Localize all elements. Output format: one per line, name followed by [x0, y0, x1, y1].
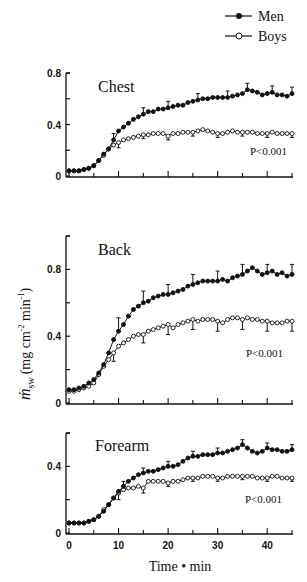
data-point-boys — [275, 132, 279, 136]
data-point-boys — [231, 316, 235, 320]
data-point-men — [141, 112, 145, 116]
data-point-men — [221, 451, 225, 455]
data-point-men — [235, 446, 239, 450]
data-point-men — [250, 266, 254, 270]
data-point-boys — [206, 129, 210, 133]
data-point-men — [136, 115, 140, 119]
data-point-boys — [136, 333, 140, 337]
panel-forearm: 00.4010203040 Forearm P<0.001 — [47, 433, 294, 551]
legend-item-boys: Boys — [225, 29, 287, 44]
data-point-men — [122, 323, 126, 327]
data-point-boys — [166, 481, 170, 485]
x-tick-label: 30 — [212, 540, 224, 551]
y-axis-label: ṁsw(mg cm-2 min-1) — [16, 288, 36, 400]
data-point-boys — [151, 328, 155, 332]
data-point-boys — [231, 129, 235, 133]
data-point-men — [141, 301, 145, 305]
data-point-boys — [265, 476, 269, 480]
data-point-men — [206, 97, 210, 101]
y-tick-label: 0 — [55, 398, 61, 409]
data-point-boys — [290, 319, 294, 323]
data-point-boys — [131, 334, 135, 338]
data-point-boys — [285, 132, 289, 136]
data-point-boys — [260, 476, 264, 480]
data-point-men — [171, 464, 175, 468]
data-point-men — [285, 449, 289, 453]
data-point-boys — [156, 132, 160, 136]
data-point-boys — [216, 132, 220, 136]
data-point-men — [201, 279, 205, 283]
data-point-boys — [126, 338, 130, 342]
data-point-men — [107, 351, 111, 355]
data-point-boys — [221, 132, 225, 136]
data-point-men — [186, 284, 190, 288]
y-tick-label: 0.8 — [47, 264, 61, 275]
data-point-boys — [280, 321, 284, 325]
data-point-men — [117, 129, 121, 133]
data-point-boys — [186, 319, 190, 323]
data-point-men — [166, 464, 170, 468]
data-point-men — [87, 519, 91, 523]
data-point-men — [245, 269, 249, 273]
data-point-boys — [240, 474, 244, 478]
data-point-boys — [131, 486, 135, 490]
data-point-boys — [196, 476, 200, 480]
legend-label-boys: Boys — [258, 29, 287, 44]
data-point-men — [260, 93, 264, 97]
data-point-men — [211, 453, 215, 457]
data-point-men — [211, 279, 215, 283]
data-point-boys — [117, 141, 121, 145]
data-point-boys — [171, 479, 175, 483]
data-point-men — [77, 386, 81, 390]
data-point-men — [156, 107, 160, 111]
data-point-boys — [285, 476, 289, 480]
data-point-boys — [260, 319, 264, 323]
x-tick-label: 20 — [163, 540, 175, 551]
open-circle-marker-icon — [236, 33, 242, 39]
data-point-boys — [245, 316, 249, 320]
data-point-boys — [161, 324, 165, 328]
x-tick-label: 10 — [113, 540, 125, 551]
data-point-men — [156, 468, 160, 472]
data-point-men — [77, 521, 81, 525]
data-point-men — [290, 448, 294, 452]
data-point-boys — [255, 476, 259, 480]
data-point-boys — [280, 132, 284, 136]
data-point-men — [171, 291, 175, 295]
data-point-men — [131, 307, 135, 311]
data-point-men — [235, 93, 239, 97]
data-point-men — [240, 272, 244, 276]
data-point-men — [226, 449, 230, 453]
data-point-men — [265, 92, 269, 96]
p-value-annotation: P<0.001 — [245, 493, 282, 505]
data-point-men — [107, 147, 111, 151]
data-point-boys — [191, 476, 195, 480]
data-point-men — [146, 299, 150, 303]
data-point-men — [280, 93, 284, 97]
data-point-boys — [176, 132, 180, 136]
data-point-boys — [245, 130, 249, 134]
data-point-boys — [166, 134, 170, 138]
data-point-men — [126, 479, 130, 483]
data-point-men — [221, 277, 225, 281]
data-point-boys — [171, 132, 175, 136]
plot-area: 00.40.8 — [47, 236, 294, 409]
data-point-boys — [186, 130, 190, 134]
data-point-men — [221, 95, 225, 99]
data-point-boys — [176, 323, 180, 327]
data-point-boys — [136, 134, 140, 138]
data-point-men — [206, 279, 210, 283]
data-point-men — [126, 121, 130, 125]
data-point-men — [72, 521, 76, 525]
sweat-rate-chart: Men Boys 00.40.8 Chest P<0.001 00.40.8 B… — [0, 0, 307, 582]
data-point-men — [92, 164, 96, 168]
data-point-men — [285, 94, 289, 98]
data-point-men — [245, 446, 249, 450]
data-point-men — [240, 92, 244, 96]
legend-item-men: Men — [225, 9, 284, 24]
data-point-boys — [290, 132, 294, 136]
data-point-men — [270, 269, 274, 273]
data-point-men — [270, 448, 274, 452]
data-point-men — [231, 448, 235, 452]
data-point-men — [136, 473, 140, 477]
